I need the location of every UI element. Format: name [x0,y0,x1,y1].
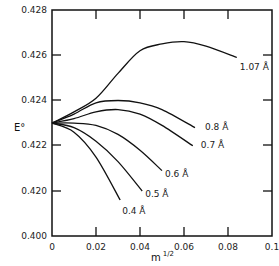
y-tick-label: 0.422 [21,140,47,150]
curve-05 [52,123,142,191]
y-tick-label: 0.400 [21,231,47,241]
curve-label: 0.7 Å [201,139,225,150]
x-tick-label: 0.04 [130,242,150,252]
y-tick-label: 0.420 [21,186,47,196]
curve-labels: 1.07 Å0.8 Å0.7 Å0.6 Å0.5 Å0.4 Å [122,61,269,217]
x-axis-title: m1/2 [151,250,174,263]
axis-ticks: 0.4000.4200.4220.4240.4260.42800.020.040… [21,5,279,252]
y-axis-title: E° [14,122,25,133]
curve-label: 0.6 Å [165,168,189,179]
curve-label: 0.4 Å [122,205,146,216]
y-tick-label: 0.424 [21,95,47,105]
curve-label: 1.07 Å [240,61,270,72]
x-tick-label: 0.08 [218,242,238,252]
x-tick-label: 0 [49,242,55,252]
chart-canvas: 0.4000.4200.4220.4240.4260.42800.020.040… [0,0,279,266]
curve-label: 0.5 Å [145,188,169,199]
y-tick-label: 0.428 [21,5,47,15]
y-tick-label: 0.426 [21,50,47,60]
x-tick-label: 0.1 [265,242,279,252]
x-tick-label: 0.06 [174,242,194,252]
x-tick-label: 0.02 [86,242,106,252]
curve-label: 0.8 Å [205,121,229,132]
curve-06 [52,123,162,171]
